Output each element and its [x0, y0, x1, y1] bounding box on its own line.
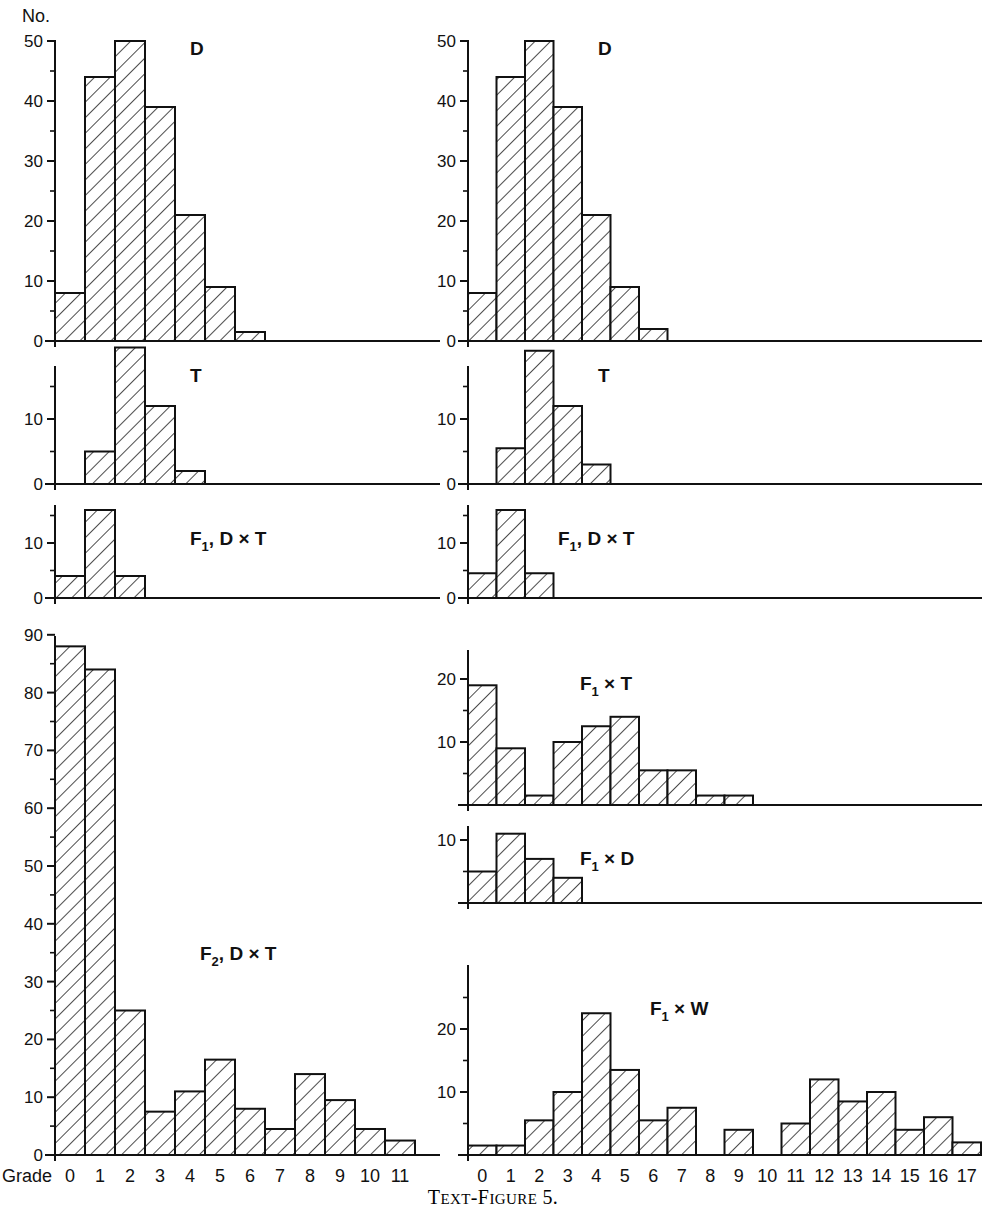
y-tick-label: 10	[437, 534, 456, 553]
bar	[582, 726, 611, 805]
bar	[497, 748, 526, 805]
bar	[115, 576, 145, 598]
y-tick-label: 10	[24, 534, 43, 553]
y-tick-label: 0	[447, 475, 456, 494]
x-tick-label-right: 0	[477, 1166, 487, 1186]
bar	[265, 1129, 295, 1155]
bar	[554, 107, 583, 341]
x-tick-label-right: 13	[843, 1166, 863, 1186]
bar	[582, 1013, 611, 1155]
x-tick-label-left: 10	[360, 1166, 380, 1186]
x-tick-label-right: 2	[534, 1166, 544, 1186]
bar	[85, 452, 115, 485]
x-axis-title: Grade	[2, 1166, 52, 1186]
bar	[639, 1120, 668, 1155]
y-tick-label: 20	[437, 1020, 456, 1039]
bar	[525, 859, 554, 903]
y-tick-label: 20	[24, 1030, 43, 1049]
x-tick-label-right: 9	[734, 1166, 744, 1186]
y-tick-label: 20	[437, 212, 456, 231]
x-tick-label-left: 11	[391, 1166, 410, 1186]
y-tick-label: 0	[34, 332, 43, 351]
y-tick-label: 40	[24, 915, 43, 934]
panel-title-text: D	[190, 38, 204, 59]
y-tick-label: 50	[24, 32, 43, 51]
bar	[115, 1011, 145, 1156]
x-tick-label-right: 1	[506, 1166, 516, 1186]
y-tick-label: 0	[447, 332, 456, 351]
panel-title-text: T	[598, 365, 610, 386]
x-tick-label-right: 8	[705, 1166, 715, 1186]
x-tick-label-left: 9	[335, 1166, 345, 1186]
text-figure-5: 01020304050D010T010F1, D × T010203040506…	[0, 0, 986, 1230]
x-tick-label-right: 6	[648, 1166, 658, 1186]
bar	[554, 878, 583, 903]
x-tick-label-right: 3	[563, 1166, 573, 1186]
bar	[554, 406, 583, 484]
bar	[385, 1141, 415, 1155]
y-tick-label: 20	[437, 670, 456, 689]
bar	[725, 1130, 754, 1155]
bar	[554, 1092, 583, 1155]
bar	[325, 1100, 355, 1155]
x-tick-label-left: 5	[215, 1166, 225, 1186]
bar	[55, 293, 85, 341]
x-tick-label-left: 0	[65, 1166, 75, 1186]
bar	[611, 287, 640, 341]
bar	[85, 510, 115, 598]
bar	[668, 1108, 697, 1155]
bar	[468, 1146, 497, 1155]
bar	[867, 1092, 896, 1155]
x-tick-label-left: 4	[185, 1166, 195, 1186]
bar	[497, 1146, 526, 1155]
x-tick-label-right: 10	[757, 1166, 777, 1186]
bar	[115, 348, 145, 485]
bar	[295, 1074, 325, 1155]
bar	[924, 1117, 953, 1155]
bar	[525, 351, 554, 484]
y-tick-label: 10	[437, 272, 456, 291]
y-tick-label: 50	[24, 857, 43, 876]
y-tick-label: 10	[437, 410, 456, 429]
bar	[468, 685, 497, 805]
bar	[810, 1079, 839, 1155]
bar	[639, 329, 668, 341]
y-tick-label: 50	[437, 32, 456, 51]
panel-title: T	[190, 365, 202, 386]
y-tick-label: 20	[24, 212, 43, 231]
panel-title: T	[598, 365, 610, 386]
bar	[85, 669, 115, 1155]
y-tick-label: 0	[34, 1146, 43, 1165]
y-tick-label: 10	[437, 1083, 456, 1102]
y-tick-label: 30	[437, 152, 456, 171]
bar	[355, 1129, 385, 1155]
bar	[582, 465, 611, 485]
bar	[205, 1060, 235, 1155]
bar	[175, 1091, 205, 1155]
bar	[85, 77, 115, 341]
bar	[145, 406, 175, 484]
bar	[525, 573, 554, 598]
bar	[175, 471, 205, 484]
y-tick-label: 40	[437, 92, 456, 111]
y-tick-label: 10	[24, 272, 43, 291]
bar	[497, 510, 526, 598]
bar	[525, 796, 554, 805]
bar	[525, 1120, 554, 1155]
y-tick-label: 60	[24, 799, 43, 818]
bar	[611, 1070, 640, 1155]
x-tick-label-left: 2	[125, 1166, 135, 1186]
bar	[205, 287, 235, 341]
panel-title: D	[598, 38, 612, 59]
bar	[115, 41, 145, 341]
x-tick-label-right: 16	[928, 1166, 948, 1186]
bar	[582, 215, 611, 341]
y-tick-label: 0	[447, 589, 456, 608]
bar	[554, 742, 583, 805]
bar	[668, 770, 697, 805]
x-tick-label-right: 15	[900, 1166, 920, 1186]
panel-title-text: T	[190, 365, 202, 386]
bar	[725, 796, 754, 805]
x-tick-label-right: 4	[591, 1166, 601, 1186]
bar	[497, 448, 526, 484]
